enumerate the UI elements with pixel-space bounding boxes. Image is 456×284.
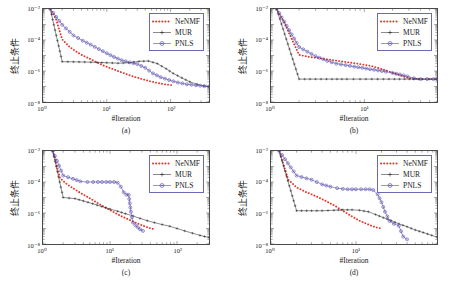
legend-item-pnls: PNLS bbox=[152, 38, 200, 48]
legend-swatch-pnls-icon bbox=[152, 181, 172, 190]
panel-a: 终止条件 10⁻²10⁻⁴10⁻⁶10⁻⁸ NeNMFMURPNLS 10⁰10… bbox=[0, 0, 228, 142]
plot-area-c: NeNMFMURPNLS bbox=[42, 150, 210, 245]
legend-item-pnls: PNLS bbox=[152, 180, 200, 190]
panel-c: 终止条件 10⁻²10⁻⁴10⁻⁶10⁻⁸ NeNMFMURPNLS 10⁰10… bbox=[0, 142, 228, 284]
y-tick-labels-d: 10⁻²10⁻⁴10⁻⁶10⁻⁸ bbox=[242, 150, 268, 245]
y-tick-0: 10⁻² bbox=[244, 147, 268, 154]
y-tick-0: 10⁻² bbox=[16, 5, 40, 12]
legend-item-nenmf: NeNMF bbox=[380, 158, 428, 168]
legend-swatch-mur-icon bbox=[380, 170, 400, 179]
legend-d: NeNMFMURPNLS bbox=[377, 155, 432, 193]
panel-tag-b: (b) bbox=[270, 126, 438, 135]
y-tick-2: 10⁻⁶ bbox=[16, 210, 40, 217]
legend-c: NeNMFMURPNLS bbox=[149, 155, 204, 193]
x-tick-0: 10⁰ bbox=[37, 105, 47, 113]
x-tick-2: 10² bbox=[167, 105, 175, 113]
legend-item-nenmf: NeNMF bbox=[152, 16, 200, 26]
legend-item-nenmf: NeNMF bbox=[152, 158, 200, 168]
x-tick-1: 10¹ bbox=[106, 247, 114, 255]
legend-item-mur: MUR bbox=[380, 27, 428, 37]
plot-area-b: NeNMFMURPNLS bbox=[270, 8, 438, 103]
legend-swatch-pnls-icon bbox=[152, 39, 172, 48]
y-tick-1: 10⁻⁴ bbox=[16, 36, 40, 43]
legend-label-nenmf: NeNMF bbox=[175, 159, 200, 168]
legend-swatch-nenmf-icon bbox=[380, 159, 400, 168]
figure-convergence-comparison: 终止条件 10⁻²10⁻⁴10⁻⁶10⁻⁸ NeNMFMURPNLS 10⁰10… bbox=[0, 0, 456, 284]
plot-area-d: NeNMFMURPNLS bbox=[270, 150, 438, 245]
legend-label-mur: MUR bbox=[403, 170, 420, 179]
panel-tag-a: (a) bbox=[42, 126, 210, 135]
x-tick-1: 10¹ bbox=[360, 105, 368, 113]
y-tick-2: 10⁻⁶ bbox=[244, 210, 268, 217]
x-tick-0: 10⁰ bbox=[265, 105, 275, 113]
x-tick-0: 10⁰ bbox=[265, 247, 275, 255]
legend-item-mur: MUR bbox=[380, 169, 428, 179]
x-tick-0: 10⁰ bbox=[37, 247, 47, 255]
legend-swatch-nenmf-icon bbox=[152, 159, 172, 168]
y-tick-2: 10⁻⁶ bbox=[244, 68, 268, 75]
x-tick-1: 10¹ bbox=[102, 105, 110, 113]
legend-a: NeNMFMURPNLS bbox=[149, 13, 204, 51]
panel-b: 终止条件 10⁻²10⁻⁴10⁻⁶10⁻⁸ NeNMFMURPNLS 10⁰10… bbox=[228, 0, 456, 142]
panel-d: 终止条件 10⁻²10⁻⁴10⁻⁶10⁻⁸ NeNMFMURPNLS 10⁰10… bbox=[228, 142, 456, 284]
legend-label-pnls: PNLS bbox=[175, 181, 193, 190]
y-tick-0: 10⁻² bbox=[16, 147, 40, 154]
plot-area-a: NeNMFMURPNLS bbox=[42, 8, 210, 103]
legend-swatch-mur-icon bbox=[380, 28, 400, 37]
legend-swatch-nenmf-icon bbox=[380, 17, 400, 26]
x-axis-label-a: #Iteration bbox=[42, 114, 210, 123]
legend-label-nenmf: NeNMF bbox=[175, 17, 200, 26]
x-axis-label-d: #Iteration bbox=[270, 256, 438, 265]
y-tick-1: 10⁻⁴ bbox=[244, 178, 268, 185]
legend-label-pnls: PNLS bbox=[403, 39, 421, 48]
legend-label-nenmf: NeNMF bbox=[403, 159, 428, 168]
panel-tag-c: (c) bbox=[42, 268, 210, 277]
legend-label-mur: MUR bbox=[175, 28, 192, 37]
y-tick-1: 10⁻⁴ bbox=[244, 36, 268, 43]
x-axis-label-c: #Iteration bbox=[42, 256, 210, 265]
panel-tag-d: (d) bbox=[270, 268, 438, 277]
legend-swatch-pnls-icon bbox=[380, 39, 400, 48]
x-axis-label-b: #Iteration bbox=[270, 114, 438, 123]
y-tick-labels-b: 10⁻²10⁻⁴10⁻⁶10⁻⁸ bbox=[242, 8, 268, 103]
legend-item-mur: MUR bbox=[152, 169, 200, 179]
legend-item-nenmf: NeNMF bbox=[380, 16, 428, 26]
y-tick-2: 10⁻⁶ bbox=[16, 68, 40, 75]
legend-b: NeNMFMURPNLS bbox=[377, 13, 432, 51]
y-tick-0: 10⁻² bbox=[244, 5, 268, 12]
legend-swatch-pnls-icon bbox=[380, 181, 400, 190]
y-tick-1: 10⁻⁴ bbox=[16, 178, 40, 185]
legend-item-pnls: PNLS bbox=[380, 38, 428, 48]
legend-item-mur: MUR bbox=[152, 27, 200, 37]
x-tick-2: 10² bbox=[173, 247, 181, 255]
legend-label-pnls: PNLS bbox=[403, 181, 421, 190]
legend-label-nenmf: NeNMF bbox=[403, 17, 428, 26]
legend-swatch-nenmf-icon bbox=[152, 17, 172, 26]
legend-swatch-mur-icon bbox=[152, 28, 172, 37]
legend-label-pnls: PNLS bbox=[175, 39, 193, 48]
y-tick-labels-c: 10⁻²10⁻⁴10⁻⁶10⁻⁸ bbox=[14, 150, 40, 245]
legend-item-pnls: PNLS bbox=[380, 180, 428, 190]
legend-swatch-mur-icon bbox=[152, 170, 172, 179]
y-tick-labels-a: 10⁻²10⁻⁴10⁻⁶10⁻⁸ bbox=[14, 8, 40, 103]
x-tick-1: 10¹ bbox=[352, 247, 360, 255]
legend-label-mur: MUR bbox=[403, 28, 420, 37]
legend-label-mur: MUR bbox=[175, 170, 192, 179]
